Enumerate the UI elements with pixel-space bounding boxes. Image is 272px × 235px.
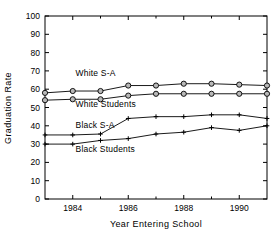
data-point-marker xyxy=(264,91,269,96)
data-point-marker xyxy=(98,138,103,143)
y-tick-label: 20 xyxy=(31,157,41,167)
data-point-marker xyxy=(42,90,47,95)
data-point-marker xyxy=(153,91,158,96)
series-label-white-students: White Students xyxy=(76,99,136,109)
data-point-marker xyxy=(265,124,270,129)
y-tick-label: 60 xyxy=(31,84,41,94)
data-point-marker xyxy=(43,133,48,138)
series-label-black-students: Black Students xyxy=(76,144,135,154)
data-point-marker xyxy=(70,142,75,147)
y-tick-label: 100 xyxy=(26,11,40,21)
data-series-group xyxy=(42,81,269,146)
data-point-marker xyxy=(126,136,131,141)
series-inline-labels: White S-AWhite StudentsBlack S-ABlack St… xyxy=(76,68,136,154)
data-point-marker xyxy=(237,91,242,96)
data-point-marker xyxy=(98,88,103,93)
series-label-white-s-a: White S-A xyxy=(76,68,116,78)
data-point-marker xyxy=(237,128,242,133)
data-point-marker xyxy=(265,116,270,121)
y-tick-label: 50 xyxy=(31,103,41,113)
data-point-marker xyxy=(154,132,159,137)
data-point-marker xyxy=(154,114,159,119)
y-axis-ticks: 0102030405060708090100 xyxy=(26,11,267,204)
x-axis-title: Year Entering School xyxy=(110,219,202,229)
data-point-marker xyxy=(264,83,269,88)
data-point-marker xyxy=(126,93,131,98)
graduation-rate-line-chart: 0102030405060708090100 1984198619881990 … xyxy=(0,0,272,235)
data-point-marker xyxy=(126,83,131,88)
data-point-marker xyxy=(153,83,158,88)
y-tick-label: 90 xyxy=(31,29,41,39)
data-point-marker xyxy=(209,81,214,86)
y-tick-label: 40 xyxy=(31,121,41,131)
data-point-marker xyxy=(237,113,242,118)
data-point-marker xyxy=(181,81,186,86)
x-tick-label: 1990 xyxy=(230,203,249,213)
data-point-marker xyxy=(209,125,214,130)
data-point-marker xyxy=(42,98,47,103)
data-point-marker xyxy=(70,133,75,138)
data-point-marker xyxy=(70,88,75,93)
x-tick-label: 1988 xyxy=(174,203,193,213)
y-tick-label: 80 xyxy=(31,48,41,58)
data-point-marker xyxy=(98,132,103,137)
x-tick-label: 1984 xyxy=(63,203,82,213)
y-tick-label: 10 xyxy=(31,176,41,186)
data-point-marker xyxy=(43,142,48,147)
data-point-marker xyxy=(181,114,186,119)
series-label-black-s-a: Black S-A xyxy=(76,120,115,130)
data-point-marker xyxy=(126,116,131,121)
data-point-marker xyxy=(181,130,186,135)
y-tick-label: 0 xyxy=(35,194,40,204)
x-tick-label: 1986 xyxy=(119,203,138,213)
y-axis-title: Graduation Rate xyxy=(3,72,13,144)
data-point-marker xyxy=(209,91,214,96)
data-point-marker xyxy=(237,82,242,87)
data-point-marker xyxy=(181,91,186,96)
y-tick-label: 30 xyxy=(31,139,41,149)
data-point-marker xyxy=(209,113,214,118)
chart-figure: 0102030405060708090100 1984198619881990 … xyxy=(0,0,272,235)
y-tick-label: 70 xyxy=(31,66,41,76)
